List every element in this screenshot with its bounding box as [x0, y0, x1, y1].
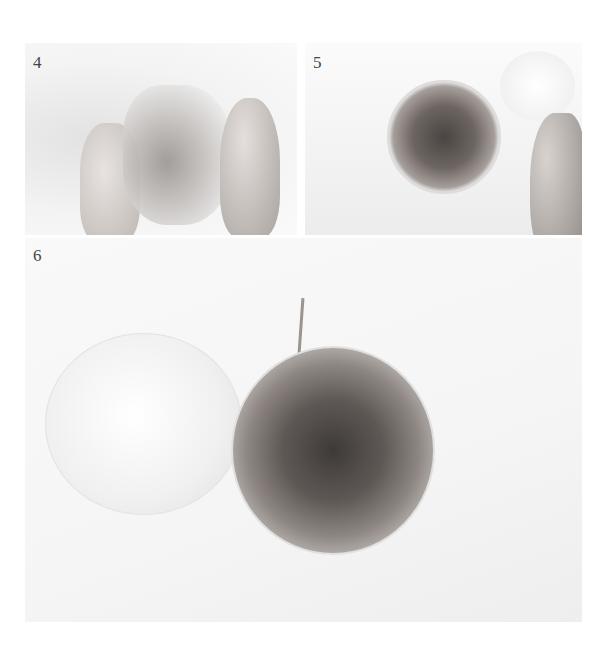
glass-bowl-with-flowers	[231, 346, 435, 555]
step-number: 4	[33, 53, 42, 73]
hand	[530, 113, 582, 235]
glass-bowl	[387, 80, 501, 194]
glass-dome	[45, 333, 242, 515]
step-5-photo: 5	[305, 43, 582, 235]
plastic-bag	[123, 85, 233, 225]
right-hand	[220, 98, 280, 235]
step-6-photo: 6	[25, 238, 582, 622]
step-number: 5	[313, 53, 322, 73]
step-number: 6	[33, 246, 42, 266]
cotton-ball	[500, 51, 575, 121]
step-4-photo: 4	[25, 43, 297, 235]
